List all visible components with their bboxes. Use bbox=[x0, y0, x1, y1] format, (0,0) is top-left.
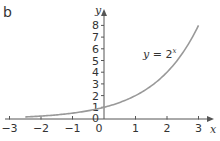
panel-label: b bbox=[3, 4, 12, 20]
y-tick-label: 2 bbox=[92, 90, 99, 103]
x-axis-label: x bbox=[210, 123, 217, 136]
origin-label: 0 bbox=[92, 112, 99, 125]
y-tick-label: 4 bbox=[92, 66, 99, 79]
exponential-curve bbox=[25, 25, 198, 117]
x-tick-label: 2 bbox=[164, 122, 171, 135]
curve-series bbox=[25, 25, 198, 117]
x-tick-label: −3 bbox=[1, 122, 17, 135]
y-tick-label: 5 bbox=[92, 55, 99, 68]
x-tick-label: 3 bbox=[195, 122, 202, 135]
y-tick-label: 3 bbox=[92, 78, 99, 91]
y-tick-label: 6 bbox=[92, 43, 99, 56]
annotation-exponent: x bbox=[172, 47, 176, 55]
y-tick-label: 8 bbox=[92, 19, 99, 32]
tick-marks: −3−2−10123123456780 bbox=[1, 19, 202, 135]
y-tick-label: 7 bbox=[92, 31, 99, 44]
x-axis-arrow-icon bbox=[207, 116, 214, 122]
x-tick-label: −2 bbox=[33, 122, 49, 135]
x-tick-label: 1 bbox=[132, 122, 139, 135]
curve-annotation: y = 2x bbox=[142, 47, 176, 61]
annotation-equals: = 2 bbox=[149, 48, 172, 61]
x-tick-label: −1 bbox=[64, 122, 80, 135]
y-axis-label: y bbox=[94, 4, 102, 17]
y-axis-arrow-icon bbox=[101, 9, 107, 16]
exponential-chart: b −3−2−10123123456780 x y y = 2x bbox=[0, 0, 220, 141]
